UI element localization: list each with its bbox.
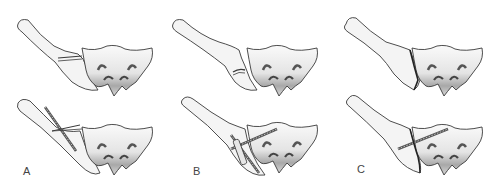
panel-a-top — [0, 0, 165, 93]
panel-label-b: B — [193, 165, 200, 177]
ilium-plate-screws-b-illustration — [165, 93, 330, 186]
panel-c-top — [330, 0, 495, 93]
panel-c-bottom: C — [330, 93, 495, 186]
ilium-sacrum-fracture-b-illustration — [165, 0, 330, 93]
panel-a-bottom: A — [0, 93, 165, 186]
fixation-figure: A B — [0, 0, 500, 186]
panel-b-top — [165, 0, 330, 93]
panel-label-a: A — [23, 165, 30, 177]
panel-b-bottom: B — [165, 93, 330, 186]
panel-label-c: C — [357, 163, 365, 175]
sacroiliac-disruption-c-illustration — [330, 0, 495, 93]
iliosacral-screw-c-illustration — [330, 93, 495, 186]
ilium-sacrum-fracture-a-illustration — [0, 0, 165, 93]
